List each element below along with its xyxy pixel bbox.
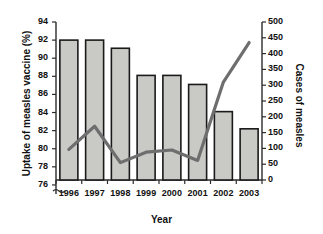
y-axis-break-marker xyxy=(53,190,65,193)
bar xyxy=(189,84,207,180)
plot-area xyxy=(0,0,323,234)
bar xyxy=(163,75,181,180)
axes-group xyxy=(52,22,266,194)
bar xyxy=(137,75,155,180)
bar xyxy=(86,40,104,180)
bars-group xyxy=(60,40,258,180)
measles-chart: Uptake of measles vaccine (%) Cases of m… xyxy=(0,0,323,234)
bar xyxy=(214,112,232,180)
bar xyxy=(240,129,258,180)
bar xyxy=(60,40,78,180)
